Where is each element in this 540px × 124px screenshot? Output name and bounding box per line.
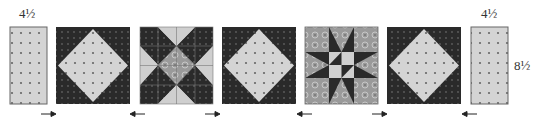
block-1-square-in-square (56, 27, 130, 104)
block-4-ohio-star (305, 27, 378, 104)
right-rectangle (471, 27, 508, 104)
arrow-left-icon (462, 112, 477, 117)
block-5-square-in-square (387, 27, 461, 104)
arrow-right-icon (205, 112, 220, 117)
block-3-square-in-square (222, 27, 296, 104)
arrow-left-icon (297, 112, 312, 117)
arrow-right-icon (372, 112, 387, 117)
block-2-star-variation (140, 27, 213, 104)
arrow-right-icon (41, 112, 56, 117)
left-rectangle (10, 27, 47, 104)
arrow-left-icon (130, 112, 145, 117)
quilt-diagram (0, 0, 540, 124)
